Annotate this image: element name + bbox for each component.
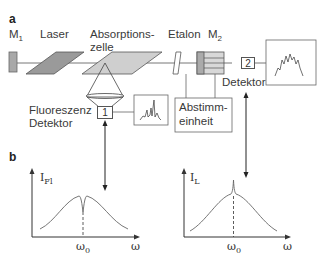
panel-a-label: a — [9, 12, 16, 26]
mirror2-label: M2 — [208, 28, 222, 45]
left-plot-xlabel: ω — [131, 240, 140, 253]
mirror2-text: M — [208, 28, 218, 40]
mirror1-label: M1 — [9, 28, 23, 45]
right-plot-xtick: ω0 — [227, 240, 241, 255]
absorption-cell-label-line2: zelle — [90, 41, 114, 54]
left-xtick-sub: 0 — [85, 246, 90, 255]
etalon-label: Etalon — [168, 28, 201, 41]
tuning-unit-label-line1: Abstimm- — [179, 101, 228, 114]
right-plot-xlabel: ω — [283, 240, 292, 253]
absorption-cell-label-line1: Absorptions- — [90, 28, 155, 41]
mirror2-sub: 2 — [218, 34, 222, 43]
fluorescence-detector-label-line1: Fluoreszenz — [29, 104, 92, 117]
fluorescence-detector-label-line2: Detektor — [29, 117, 72, 130]
right-plot-ylabel: IL — [190, 171, 200, 186]
tuning-unit-label-line2: einheit — [179, 115, 213, 128]
left-ylabel-sub: Fl — [44, 177, 52, 186]
mirror1-sub: 1 — [19, 34, 23, 43]
detector1-box: 1 — [97, 106, 113, 119]
mirror1-text: M — [9, 28, 19, 40]
left-xtick-text: ω — [76, 240, 85, 253]
left-plot-xtick: ω0 — [76, 240, 90, 255]
right-ylabel-sub: L — [194, 177, 199, 186]
right-xtick-text: ω — [227, 240, 236, 253]
right-xtick-sub: 0 — [236, 246, 241, 255]
detector2-box: 2 — [241, 57, 255, 69]
left-plot-ylabel: IFl — [40, 171, 52, 186]
detector2-label: Detektor — [222, 76, 265, 89]
laser-label: Laser — [40, 28, 69, 41]
panel-b-label: b — [9, 150, 16, 164]
